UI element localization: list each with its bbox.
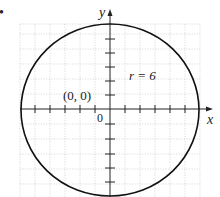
y-axis-label: y [97,5,106,20]
center-label: (0, 0) [63,88,91,103]
radius-label: r = 6 [129,68,156,83]
y-axis-arrow-icon [108,9,113,16]
bullet-marker: • [0,5,4,20]
x-axis-label: x [206,112,214,127]
x-axis-arrow-icon [206,107,213,112]
circle-diagram: • y x 0 (0, 0) r = 6 [0,0,220,197]
origin-label: 0 [97,111,103,125]
